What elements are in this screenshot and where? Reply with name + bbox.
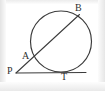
point-label-b: B [75,3,82,13]
secant-PB [16,15,80,74]
point-label-p: P [7,66,13,76]
tangent-PT [16,73,86,74]
figure-canvas [0,0,105,91]
circle-shape [31,11,92,72]
point-label-t: T [61,72,67,82]
geometry-figure: P A B T [0,0,105,91]
point-label-a: A [22,51,29,61]
